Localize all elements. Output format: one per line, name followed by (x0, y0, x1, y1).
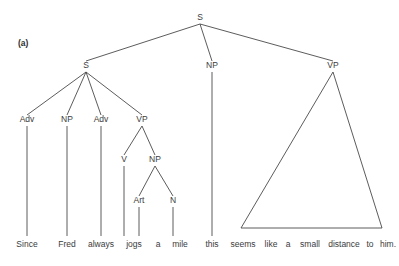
node-label-VP-main: VP (327, 60, 339, 70)
terminal-word-a: a (156, 239, 161, 249)
terminal-word-him: him. (380, 239, 396, 249)
syntax-tree-canvas: SSNPVPAdvNPAdvVPVNPArtN SinceFredalwaysj… (0, 0, 399, 266)
terminal-word-small: small (300, 239, 320, 249)
tree-edge-NPmile-to-Art (139, 166, 155, 196)
terminal-word-like: like (265, 239, 278, 249)
terminal-word-fred: Fred (58, 239, 76, 249)
node-label-NP-mile: NP (149, 154, 161, 164)
terminal-word-distance: distance (328, 239, 360, 249)
tree-edge-root-to-NP (200, 24, 212, 61)
node-label-Adv-1: Adv (20, 114, 35, 124)
terminal-word-since: Since (16, 239, 38, 249)
terminal-word-this: this (205, 239, 218, 249)
terminal-word-always: always (88, 239, 114, 249)
terminal-word-a2: a (286, 239, 291, 249)
tree-edge-NPmile-to-N (155, 166, 173, 196)
node-label-S-sub: S (83, 60, 89, 70)
tree-edge-Ssub-to-Adv2 (86, 72, 101, 115)
tree-edge-root-to-Ssub (86, 24, 200, 61)
node-label-V-jogs: V (121, 154, 127, 164)
terminal-words-group: SinceFredalwaysjogsamilethisseemslikeasm… (16, 239, 396, 249)
node-label-Adv-2: Adv (94, 114, 109, 124)
tree-edge-Ssub-to-Adv1 (27, 72, 86, 115)
node-label-VP-sub: VP (136, 114, 148, 124)
tree-edge-VPsub-to-NP (142, 126, 155, 155)
tree-edge-VPsub-to-V (124, 126, 142, 155)
node-label-NP-subj: NP (206, 60, 218, 70)
node-label-Art-a: Art (134, 195, 146, 205)
terminal-word-mile: mile (172, 239, 188, 249)
node-label-S-root: S (197, 12, 203, 22)
tree-edge-VPmain-left (241, 72, 333, 228)
terminal-word-jogs: jogs (125, 239, 142, 249)
tree-edge-VPmain-right (333, 72, 382, 228)
node-label-N-mile: N (170, 195, 176, 205)
panel-label: (a) (18, 38, 29, 48)
tree-edge-Ssub-to-VP (86, 72, 142, 115)
terminal-word-seems: seems (230, 239, 255, 249)
terminal-word-to: to (366, 239, 373, 249)
syntax-tree-figure: SSNPVPAdvNPAdvVPVNPArtN SinceFredalwaysj… (0, 0, 399, 266)
tree-edges-group (27, 24, 382, 236)
tree-edge-root-to-VP (200, 24, 333, 61)
node-label-NP-fred: NP (61, 114, 73, 124)
tree-nodes-group: SSNPVPAdvNPAdvVPVNPArtN (20, 12, 339, 205)
